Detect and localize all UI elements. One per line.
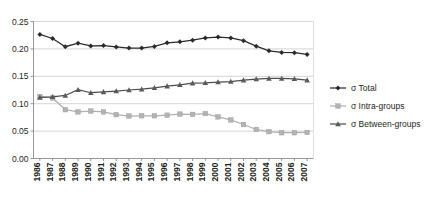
y-tick-label: 0.20 bbox=[12, 44, 29, 54]
x-tick-label: 1988 bbox=[57, 162, 67, 181]
y-tick-label: 0.05 bbox=[12, 126, 29, 136]
x-tick-label: 1998 bbox=[185, 162, 195, 181]
x-tick-label: 2002 bbox=[236, 162, 246, 181]
data-point-marker bbox=[254, 127, 259, 132]
x-tick-label: 1993 bbox=[121, 162, 131, 181]
x-tick-label: 2001 bbox=[223, 162, 233, 181]
x-tick-label: 1992 bbox=[108, 162, 118, 181]
x-tick-label: 1994 bbox=[134, 162, 144, 181]
y-tick-label: 0.25 bbox=[12, 17, 29, 27]
chart-figure: 0.000.050.100.150.200.25 198619871988198… bbox=[0, 0, 429, 202]
x-tick-label: 1987 bbox=[45, 162, 55, 181]
data-point-marker bbox=[228, 118, 233, 123]
legend-label: σ Total bbox=[351, 83, 377, 93]
legend-label: σ Between-groups bbox=[351, 119, 421, 129]
x-tick-label: 2004 bbox=[261, 162, 271, 181]
x-tick-label: 1995 bbox=[146, 162, 156, 181]
y-tick-label: 0.00 bbox=[12, 154, 29, 164]
data-point-marker bbox=[139, 113, 144, 118]
x-tick-label: 1991 bbox=[96, 162, 106, 181]
data-point-marker bbox=[190, 112, 195, 117]
x-tick-label: 2003 bbox=[248, 162, 258, 181]
data-point-marker bbox=[292, 130, 297, 135]
x-tick-label: 2005 bbox=[274, 162, 284, 181]
data-point-marker bbox=[76, 110, 81, 115]
x-tick-label: 1990 bbox=[83, 162, 93, 181]
x-tick-label: 1996 bbox=[159, 162, 169, 181]
data-point-marker bbox=[63, 107, 68, 112]
x-tick-label: 1997 bbox=[172, 162, 182, 181]
y-tick-label: 0.15 bbox=[12, 71, 29, 81]
data-point-marker bbox=[152, 113, 157, 118]
data-point-marker bbox=[336, 104, 341, 109]
data-point-marker bbox=[305, 130, 310, 135]
data-point-marker bbox=[178, 112, 183, 117]
data-point-marker bbox=[127, 114, 132, 119]
data-point-marker bbox=[101, 110, 106, 115]
x-tick-label: 1989 bbox=[70, 162, 80, 181]
data-point-marker bbox=[165, 113, 170, 118]
legend-label: σ Intra-groups bbox=[351, 101, 404, 111]
data-point-marker bbox=[114, 112, 119, 117]
x-tick-label: 2007 bbox=[299, 162, 309, 181]
x-tick-label: 1986 bbox=[32, 162, 42, 181]
x-tick-label: 2000 bbox=[210, 162, 220, 181]
data-point-marker bbox=[241, 122, 246, 127]
data-point-marker bbox=[267, 129, 272, 134]
x-tick-label: 2006 bbox=[286, 162, 296, 181]
y-tick-label: 0.10 bbox=[12, 99, 29, 109]
data-point-marker bbox=[203, 111, 208, 116]
x-tick-label: 1999 bbox=[197, 162, 207, 181]
data-point-marker bbox=[88, 109, 93, 114]
data-point-marker bbox=[216, 115, 221, 120]
data-point-marker bbox=[279, 130, 284, 135]
